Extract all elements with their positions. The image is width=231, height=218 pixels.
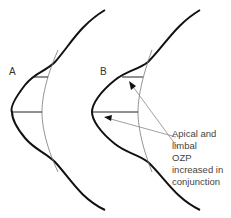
panel-a-label: A — [9, 66, 16, 77]
annotation-line-2: OZP increased in — [172, 152, 231, 176]
panel-b-label: B — [100, 66, 107, 77]
annotation-line-3: conjunction — [172, 176, 231, 188]
panel-a-lens-profile — [12, 10, 105, 210]
arrow-limbal-head-icon — [104, 115, 112, 121]
arrow-apical-head-icon — [129, 81, 136, 90]
panel-b-guide-arc — [138, 50, 152, 172]
annotation-text: Apical and limbal OZP increased in conju… — [172, 128, 231, 188]
panel-a — [12, 10, 105, 210]
arrow-limbal — [107, 118, 176, 137]
annotation-line-1: Apical and limbal — [172, 128, 231, 152]
